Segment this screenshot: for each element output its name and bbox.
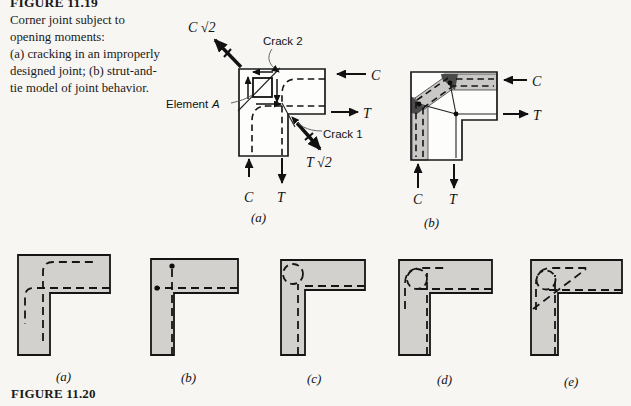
label-t-bottom-a: T — [277, 190, 286, 205]
figure-1120-panel-a: (a) — [18, 255, 110, 384]
node-dot-top — [448, 81, 453, 86]
label-c-bottom-b: C — [413, 192, 423, 207]
corner-b-anchor-top — [169, 263, 174, 268]
label-c-bottom-a: C — [244, 190, 254, 205]
panel-label-1120a: (a) — [56, 369, 71, 384]
figure-1120-panel-c: (c) — [281, 260, 365, 386]
corner-e-shape — [531, 260, 622, 355]
label-c-right-b: C — [532, 74, 542, 89]
figure-1120-panel-d: (d) — [399, 260, 492, 387]
corner-b-shape — [151, 259, 238, 355]
label-t-sqrt2: T √2 — [306, 155, 332, 170]
figure-1119-diagram-b: C T C T (b) — [411, 72, 542, 230]
corner-b-anchor-left — [154, 285, 159, 290]
corner-d-shape — [399, 260, 492, 355]
corner-a-shape — [18, 255, 110, 355]
panel-label-1120c: (c) — [307, 371, 321, 386]
panel-label-1119b: (b) — [424, 215, 439, 230]
panel-label-1119a: (a) — [251, 210, 266, 225]
label-element-word: Element — [166, 98, 209, 110]
label-t-bottom-b: T — [449, 192, 458, 207]
label-element-var: A — [211, 98, 220, 110]
figure-1119-diagram-a: C √2 Crack 2 Element A Crack 1 T √2 C T … — [166, 20, 381, 225]
panel-label-1120d: (d) — [437, 372, 452, 387]
figure-1120-panel-e: (e) — [531, 260, 622, 389]
label-crack-2: Crack 2 — [263, 35, 303, 47]
node-dot-center — [454, 112, 459, 117]
label-t-right-a: T — [363, 106, 372, 121]
figures-canvas: C √2 Crack 2 Element A Crack 1 T √2 C T … — [0, 0, 631, 406]
node-dot-left — [417, 102, 422, 107]
figure-1120-panel-b: (b) — [151, 259, 238, 385]
label-crack-1: Crack 1 — [323, 128, 363, 140]
label-c-right-a: C — [371, 68, 381, 83]
panel-label-1120e: (e) — [564, 374, 578, 389]
label-c-sqrt2: C √2 — [188, 20, 216, 35]
label-t-right-b: T — [533, 108, 542, 123]
panel-label-1120b: (b) — [181, 370, 196, 385]
corner-c-shape — [281, 260, 365, 355]
